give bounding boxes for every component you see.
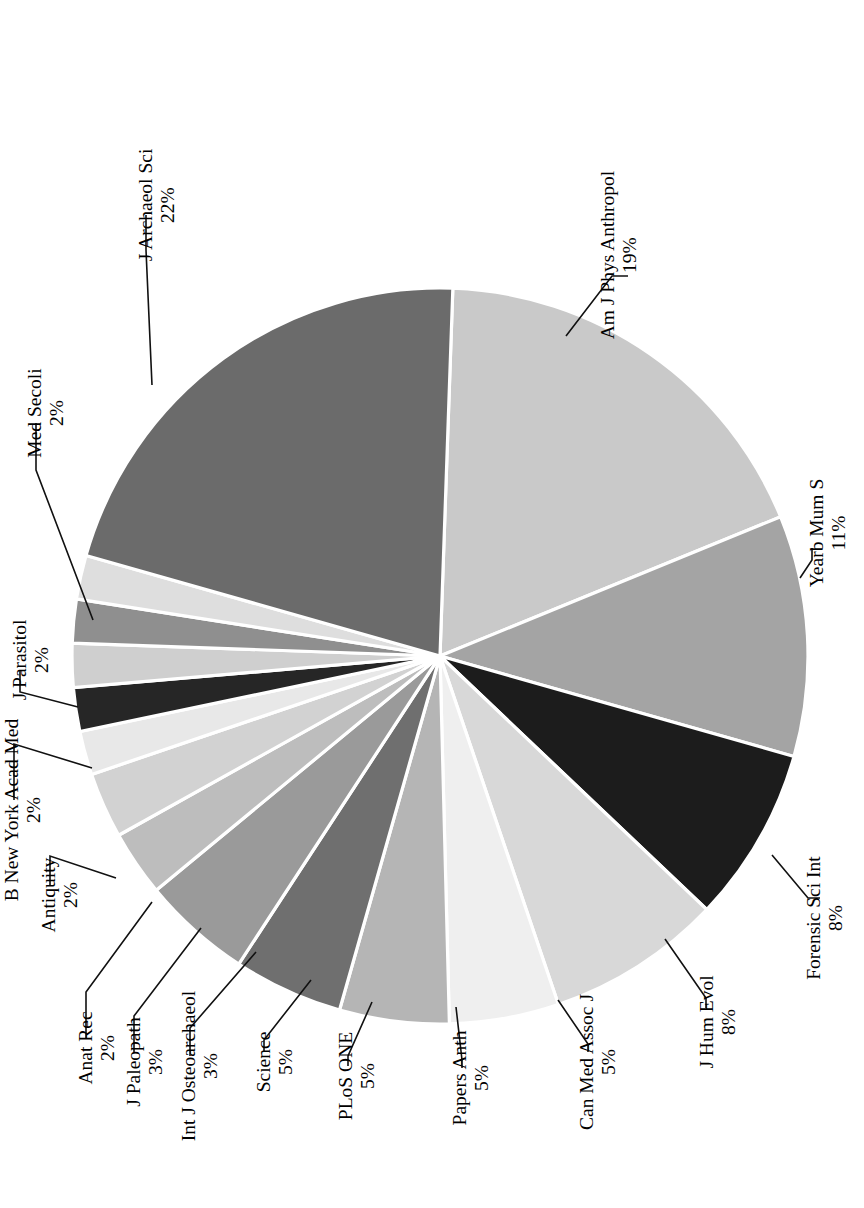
slice-label-name: Forensic Sci Int <box>803 856 824 980</box>
slice-label-percent: 2% <box>46 400 67 426</box>
slice-label: J Parasitol2% <box>9 619 52 700</box>
slice-label-percent: 8% <box>718 1009 739 1035</box>
slice-label: Science5% <box>253 1032 296 1093</box>
slice-label-percent: 2% <box>60 882 81 908</box>
slice-label: Med Secoli2% <box>24 368 67 458</box>
leader-line <box>14 744 92 800</box>
slice-label: Forensic Sci Int8% <box>803 856 846 980</box>
slice-label-name: Yearb Mum S <box>806 479 827 588</box>
slice-label-percent: 2% <box>31 647 52 673</box>
slice-label-percent: 19% <box>619 237 640 273</box>
slice-label: J Hum Evol8% <box>696 975 739 1069</box>
slice-label-percent: 2% <box>97 1035 118 1061</box>
slice-label: Am J Phys Anthropol19% <box>597 170 640 339</box>
slice-label-percent: 8% <box>825 905 846 931</box>
slice-label-name: PLoS ONE <box>335 1032 356 1120</box>
slice-label-name: Science <box>253 1032 274 1093</box>
slice-label-percent: 11% <box>828 515 849 550</box>
pie-chart-svg: Am J Phys Anthropol19%Yearb Mum S11%Fore… <box>0 0 864 1208</box>
slice-label-name: Int J Osteoarchaeol <box>178 990 199 1141</box>
slice-label-name: J Paleopath <box>123 1017 144 1107</box>
slice-label-name: J Hum Evol <box>696 975 717 1069</box>
slice-label: PLoS ONE5% <box>335 1032 378 1120</box>
slice-label: Can Med Assoc J5% <box>576 994 619 1130</box>
slice-label-name: Anat Rec <box>75 1011 96 1084</box>
slice-label-name: Can Med Assoc J <box>576 994 597 1130</box>
slice-label: Papers Anth5% <box>449 1030 492 1125</box>
slice-label-name: Med Secoli <box>24 368 45 458</box>
slice-label: Anat Rec2% <box>75 1011 118 1084</box>
slice-label-percent: 22% <box>157 187 178 223</box>
slice-label-name: J Archaeol Sci <box>135 148 156 261</box>
slice-label: J Archaeol Sci22% <box>135 148 178 261</box>
slice-label: Yearb Mum S11% <box>806 479 849 588</box>
leader-line <box>50 856 116 885</box>
slice-label-percent: 2% <box>23 797 44 823</box>
slice-label: Int J Osteoarchaeol3% <box>178 990 221 1141</box>
slice-label-percent: 5% <box>471 1065 492 1091</box>
slice-label-name: J Parasitol <box>9 619 30 700</box>
slice-label-percent: 3% <box>200 1053 221 1079</box>
slice-label-percent: 5% <box>275 1049 296 1075</box>
slice-label-name: B New York Acad Med <box>1 718 22 901</box>
pie-slices-group <box>72 288 808 1024</box>
slice-label-percent: 5% <box>357 1063 378 1089</box>
pie-chart-figure: Am J Phys Anthropol19%Yearb Mum S11%Fore… <box>0 0 864 1208</box>
slice-label-percent: 3% <box>145 1049 166 1075</box>
slice-label-name: Am J Phys Anthropol <box>597 170 618 339</box>
slice-label-percent: 5% <box>598 1049 619 1075</box>
slice-label-name: Antiquity <box>38 857 59 932</box>
slice-label: Antiquity2% <box>38 857 81 932</box>
slice-label-name: Papers Anth <box>449 1030 470 1125</box>
slice-label: J Paleopath3% <box>123 1017 166 1107</box>
